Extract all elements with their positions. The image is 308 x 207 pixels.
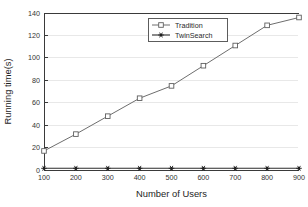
data-point-marker (170, 167, 172, 169)
x-tick-label: 400 (134, 173, 146, 182)
legend: TraditionTwinSearch (148, 18, 227, 41)
data-point-marker (297, 15, 302, 20)
data-point-marker (75, 167, 77, 169)
y-tick-label: 80 (32, 76, 40, 85)
x-tick-label: 500 (166, 173, 178, 182)
data-point-marker (137, 96, 142, 101)
data-point-marker (159, 23, 164, 28)
data-point-marker (42, 149, 47, 154)
legend-label: TwinSearch (175, 31, 213, 40)
data-point-marker (160, 34, 162, 36)
data-point-marker (139, 167, 141, 169)
chart-figure: 020406080100120140 100200300400500600700… (0, 0, 308, 207)
x-tick-label: 700 (229, 173, 241, 182)
data-point-marker (105, 114, 110, 119)
x-tick-label: 800 (261, 173, 273, 182)
y-tick-label: 40 (32, 121, 40, 130)
x-axis-title: Number of Users (136, 188, 207, 199)
x-tick-label: 100 (38, 173, 50, 182)
y-tick-label: 100 (28, 53, 40, 62)
line-chart: 020406080100120140 100200300400500600700… (0, 0, 308, 207)
x-tick-label: 300 (102, 173, 114, 182)
y-tick-label: 140 (28, 9, 40, 18)
data-point-marker (298, 167, 300, 169)
y-tick-label: 60 (32, 98, 40, 107)
x-tick-label: 600 (197, 173, 209, 182)
data-point-marker (266, 167, 268, 169)
data-point-marker (43, 167, 45, 169)
data-point-marker (107, 167, 109, 169)
x-tick-label: 900 (293, 173, 305, 182)
data-point-marker (201, 63, 206, 68)
data-point-marker (265, 23, 270, 28)
legend-label: Tradition (175, 21, 203, 30)
y-axis-title: Running time(s) (2, 58, 13, 124)
data-point-marker (233, 43, 238, 48)
y-tick-label: 20 (32, 143, 40, 152)
x-axis-ticklabels: 100200300400500600700800900 (38, 173, 305, 182)
data-point-marker (202, 167, 204, 169)
x-tick-label: 200 (70, 173, 82, 182)
data-point-marker (74, 132, 79, 137)
y-tick-label: 120 (28, 31, 40, 40)
data-point-marker (169, 84, 174, 89)
data-point-marker (234, 167, 236, 169)
